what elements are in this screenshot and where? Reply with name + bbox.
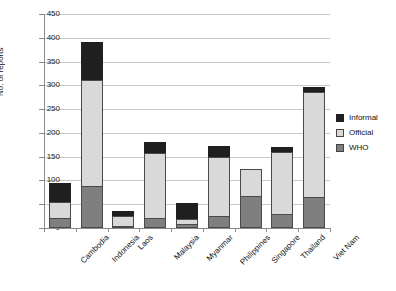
x-axis-tick-mark [266,228,267,232]
bar-segment-who[interactable] [49,218,71,228]
x-axis-tick-mark [139,228,140,232]
bar-segment-who[interactable] [240,196,262,228]
bar-series-layer [44,14,330,228]
chart-container: No. of reports 0501001502002503003504004… [0,0,396,291]
legend-item[interactable]: WHO [336,140,378,155]
x-axis-category-label: Viet Nam [332,233,362,263]
bar-segment-official[interactable] [49,202,71,218]
x-axis-line [44,228,331,229]
bar-segment-who[interactable] [144,218,166,228]
bar-group[interactable] [271,147,293,228]
bar-group[interactable] [144,142,166,228]
x-axis-tick-mark [76,228,77,232]
bar-group[interactable] [303,87,325,228]
legend-item[interactable]: Official [336,125,378,140]
bar-segment-who[interactable] [81,186,103,228]
bar-segment-informal[interactable] [81,42,103,80]
bar-segment-who[interactable] [112,226,134,228]
x-axis-category-label: Indonesia [110,233,141,264]
bar-segment-official[interactable] [81,80,103,187]
chart-legend: InformalOfficialWHO [336,110,378,155]
bar-segment-official[interactable] [208,157,230,216]
bar-segment-official[interactable] [112,216,134,226]
x-axis-category-label: Myanmar [205,233,235,263]
bar-segment-official[interactable] [303,92,325,198]
x-axis-tick-mark [298,228,299,232]
legend-swatch-informal [336,114,344,122]
legend-swatch-who [336,144,344,152]
legend-label: WHO [349,144,369,152]
x-axis-tick-mark [203,228,204,232]
bar-group[interactable] [176,203,198,228]
legend-label: Official [349,129,373,137]
bar-group[interactable] [208,146,230,228]
bar-segment-who[interactable] [176,224,198,228]
bar-segment-official[interactable] [271,152,293,214]
legend-swatch-official [336,129,344,137]
bar-group[interactable] [49,183,71,228]
bar-group[interactable] [81,42,103,228]
x-axis-category-label: Cambodia [79,233,111,265]
y-axis-title: No. of reports [0,16,5,96]
bar-segment-informal[interactable] [208,146,230,156]
bar-group[interactable] [240,169,262,228]
x-axis-tick-mark [235,228,236,232]
bar-group[interactable] [112,211,134,228]
x-axis-category-label: Laos [137,233,156,252]
bar-segment-informal[interactable] [49,183,71,202]
x-axis-category-label: Malaysia [172,233,201,262]
bar-segment-who[interactable] [208,216,230,228]
legend-item[interactable]: Informal [336,110,378,125]
x-axis-tick-mark [44,228,45,232]
x-axis-tick-mark [330,228,331,232]
bar-segment-who[interactable] [303,197,325,228]
bar-segment-informal[interactable] [176,203,198,218]
x-axis-tick-mark [108,228,109,232]
x-axis-category-label: Singapore [269,233,301,265]
bar-segment-who[interactable] [271,214,293,228]
bar-segment-official[interactable] [240,169,262,196]
bar-segment-official[interactable] [144,153,166,217]
x-axis-tick-mark [171,228,172,232]
x-axis-category-label: Philippines [238,233,272,267]
bar-segment-informal[interactable] [144,142,166,153]
x-axis-category-label: Thailand [299,233,327,261]
legend-label: Informal [349,114,378,122]
